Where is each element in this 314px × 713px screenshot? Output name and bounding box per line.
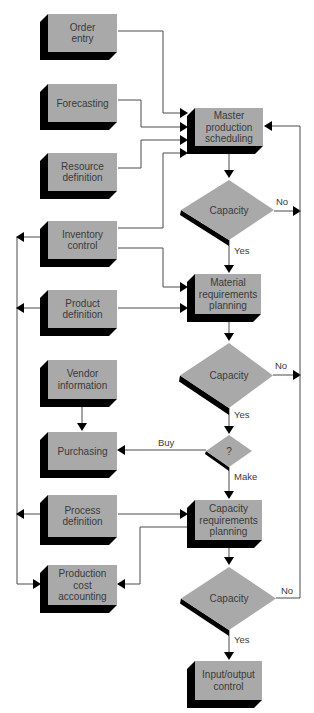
arrowhead-icon: [224, 265, 234, 273]
box-label-line: control: [213, 681, 243, 692]
arrowhead-icon: [180, 509, 188, 519]
box-label-line: Process: [64, 505, 100, 516]
arrowhead-icon: [224, 333, 234, 341]
edge-vendor-to-purchasing: [77, 405, 87, 431]
decision-capacity-3: Capacity: [180, 567, 276, 636]
process-box-product-definition: Productdefinition: [40, 290, 117, 336]
process-box-capacity-requirements-planning: Capacityrequirementsplanning: [187, 500, 262, 548]
label-yes-1: Yes: [234, 245, 250, 256]
arrowhead-icon: [180, 122, 188, 132]
label-yes-2: Yes: [234, 409, 250, 420]
box-label-line: Product: [65, 298, 100, 309]
label-yes-3: Yes: [234, 634, 250, 645]
decision-label: ?: [226, 446, 232, 457]
decision-make-or-buy: ?: [205, 435, 252, 471]
label-no-1: No: [276, 196, 288, 207]
connector-line: [118, 140, 180, 168]
process-box-resource-definition: Resourcedefinition: [40, 153, 117, 199]
label-make: Make: [234, 471, 257, 482]
arrowhead-icon: [33, 579, 41, 589]
edge-process-to-crp: [118, 509, 188, 519]
arrowhead-icon: [224, 557, 234, 565]
arrowhead-icon: [77, 423, 87, 431]
arrowhead-icon: [180, 108, 188, 118]
arrowhead-icon: [224, 652, 234, 660]
process-box-inventory-control: Inventorycontrol: [40, 221, 117, 267]
process-box-forecasting: Forecasting: [40, 84, 117, 130]
box-label-line: definition: [62, 516, 102, 527]
edge-crp-to-capacity-3: [224, 546, 234, 565]
arrowhead-icon: [180, 303, 188, 313]
connector-line: [118, 248, 180, 287]
box-label-line: Purchasing: [57, 446, 107, 457]
edge-product-to-mrp: [118, 303, 188, 313]
decision-capacity-2: Capacity: [179, 343, 273, 415]
edge-process-to-left-bus: [16, 509, 40, 519]
arrowhead-icon: [180, 148, 188, 158]
box-label-line: Master: [214, 110, 245, 121]
box-label-line: Inventory: [62, 229, 103, 240]
arrowhead-icon: [180, 282, 188, 292]
box-label-line: definition: [62, 172, 102, 183]
box-label-line: Resource: [61, 161, 104, 172]
arrowhead-icon: [224, 426, 234, 434]
arrowhead-icon: [264, 121, 272, 131]
box-label-line: entry: [71, 33, 93, 44]
edge-make-to-crp: [224, 467, 234, 499]
nodes-layer: OrderentryForecastingResourcedefinitionI…: [40, 14, 276, 708]
box-label-line: Material: [210, 277, 246, 288]
box-label-line: cost: [73, 580, 92, 591]
process-box-purchasing: Purchasing: [40, 432, 117, 478]
arrowhead-icon: [224, 491, 234, 499]
edge-order-entry-to-mps: [118, 31, 188, 118]
edge-mps-to-capacity-1: [224, 152, 234, 178]
arrowhead-icon: [117, 445, 125, 455]
box-label-line: definition: [62, 309, 102, 320]
box-label-line: requirements: [199, 515, 257, 526]
edge-crp-to-cost-accounting: [117, 527, 187, 589]
edge-inventory-to-left-bus: [16, 232, 40, 242]
edge-forecasting-to-mps: [118, 100, 188, 132]
connector-line: [118, 31, 180, 113]
box-label-line: Capacity: [209, 503, 248, 514]
process-box-process-definition: Processdefinition: [40, 495, 117, 545]
arrowhead-icon: [117, 579, 125, 589]
arrowhead-icon: [180, 135, 188, 145]
box-label-line: control: [67, 240, 97, 251]
box-label-line: Vendor: [67, 368, 99, 379]
edge-left-bus: [17, 237, 41, 589]
process-box-vendor-information: Vendorinformation: [40, 360, 117, 407]
process-box-order-entry: Orderentry: [40, 14, 117, 60]
edge-mrp-to-capacity-2: [224, 320, 234, 341]
edge-capacity-2-no: [273, 370, 301, 380]
edge-capacity-1-no: [274, 206, 301, 216]
arrowhead-icon: [224, 170, 234, 178]
box-label-line: accounting: [58, 591, 106, 602]
process-box-master-production-scheduling: Masterproductionscheduling: [187, 108, 263, 154]
process-box-material-requirements-planning: Materialrequirementsplanning: [187, 274, 261, 322]
box-label-line: production: [206, 122, 253, 133]
connector-line: [125, 527, 187, 584]
decision-label: Capacity: [210, 370, 249, 381]
connector-line: [118, 153, 180, 228]
box-label-line: information: [58, 380, 107, 391]
box-label-line: Input/output: [202, 669, 255, 680]
box-label-line: planning: [209, 300, 247, 311]
connector-line: [17, 237, 33, 584]
label-buy: Buy: [158, 437, 175, 448]
label-no-2: No: [275, 360, 287, 371]
box-label-line: requirements: [199, 289, 257, 300]
box-label-line: scheduling: [205, 133, 253, 144]
flowchart: OrderentryForecastingResourcedefinitionI…: [0, 0, 314, 713]
edge-product-to-left-bus: [16, 303, 40, 313]
decision-label: Capacity: [210, 593, 249, 604]
label-no-3: No: [281, 585, 293, 596]
decision-capacity-1: Capacity: [180, 180, 274, 246]
box-label-line: planning: [210, 526, 248, 537]
decision-label: Capacity: [210, 205, 249, 216]
process-box-production-cost-accounting: Productioncostaccounting: [40, 565, 117, 613]
edge-inventory-to-mps: [118, 148, 188, 228]
box-label-line: Order: [70, 22, 96, 33]
edge-resource-to-mps: [118, 135, 188, 168]
box-label-line: Production: [59, 568, 107, 579]
